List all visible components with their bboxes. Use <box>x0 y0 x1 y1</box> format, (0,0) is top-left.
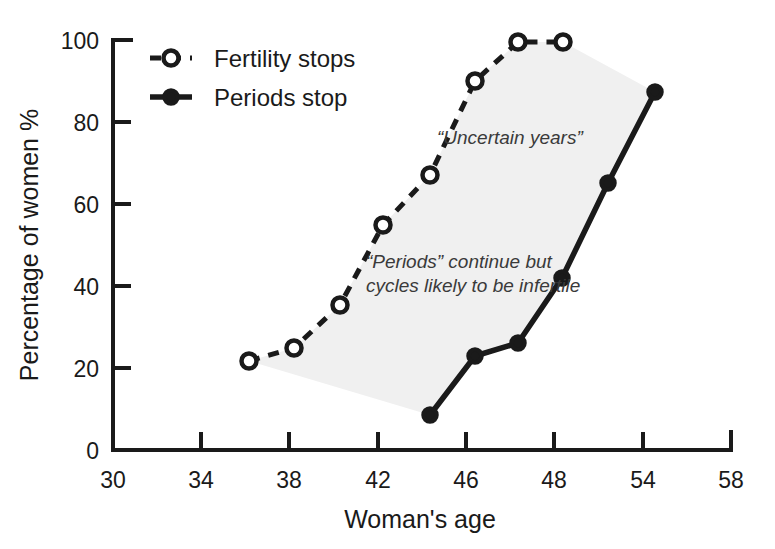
legend-filled-circle-icon <box>165 91 178 104</box>
data-point <box>424 409 437 422</box>
chart-canvas: 100 80 60 40 20 0 30 34 38 42 46 48 54 5… <box>0 0 775 549</box>
annotation-periods-line1: “Periods” continue but <box>366 251 553 272</box>
data-point <box>287 341 302 356</box>
y-axis-ticks <box>113 122 131 368</box>
x-axis-title: Woman's age <box>344 505 496 533</box>
data-point <box>649 86 662 99</box>
legend-item-fertility-stops[interactable]: Fertility stops <box>150 45 355 72</box>
x-tick-label-34: 34 <box>188 467 214 493</box>
legend-open-circle-icon <box>164 51 179 66</box>
y-tick-label-100: 100 <box>61 28 99 54</box>
data-point <box>511 35 526 50</box>
data-point <box>242 354 257 369</box>
x-axis-line <box>113 432 731 450</box>
legend-label-periods-stop: Periods stop <box>214 84 347 111</box>
y-axis-line <box>113 40 131 450</box>
data-point <box>556 35 571 50</box>
x-axis-ticks <box>201 432 643 450</box>
y-axis-title: Percentage of women % <box>15 109 43 381</box>
y-tick-label-40: 40 <box>73 274 99 300</box>
annotation-periods-line2: cycles likely to be infertile <box>366 275 580 296</box>
y-tick-label-80: 80 <box>73 110 99 136</box>
x-tick-label-38: 38 <box>276 467 302 493</box>
data-point <box>512 337 525 350</box>
x-tick-label-58: 58 <box>718 467 744 493</box>
data-point <box>602 177 615 190</box>
y-tick-label-0: 0 <box>86 438 99 464</box>
x-tick-label-54: 54 <box>630 467 656 493</box>
data-point <box>376 218 391 233</box>
x-tick-label-48: 48 <box>541 467 567 493</box>
y-tick-label-20: 20 <box>73 356 99 382</box>
chart-legend: Fertility stops Periods stop <box>150 45 355 111</box>
x-tick-label-42: 42 <box>365 467 391 493</box>
chart-figure: 100 80 60 40 20 0 30 34 38 42 46 48 54 5… <box>0 0 775 549</box>
data-point <box>469 350 482 363</box>
x-tick-label-46: 46 <box>453 467 479 493</box>
data-point <box>423 168 438 183</box>
data-point <box>333 298 348 313</box>
annotation-uncertain-years: “Uncertain years” <box>437 127 584 148</box>
legend-label-fertility-stops: Fertility stops <box>214 45 355 72</box>
data-point <box>468 74 483 89</box>
x-tick-label-30: 30 <box>100 467 126 493</box>
legend-item-periods-stop[interactable]: Periods stop <box>150 84 347 111</box>
y-tick-label-60: 60 <box>73 192 99 218</box>
